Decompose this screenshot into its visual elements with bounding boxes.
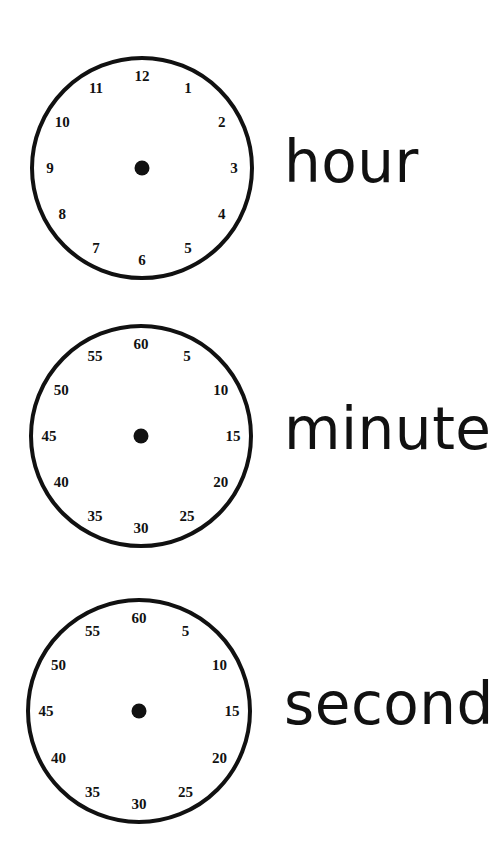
center-dot-icon (135, 161, 150, 176)
clock-number: 30 (132, 796, 147, 812)
clock-number: 15 (225, 703, 240, 719)
clock-number: 5 (184, 240, 192, 256)
clock-number: 10 (55, 114, 70, 130)
hour-label: hour (284, 133, 419, 191)
clock-number: 40 (54, 474, 69, 490)
clock-number: 5 (182, 623, 190, 639)
clock-number: 20 (212, 750, 227, 766)
center-dot-icon (134, 429, 149, 444)
clock-number: 8 (59, 206, 67, 222)
clock-number: 55 (85, 623, 100, 639)
clock-number: 2 (218, 114, 226, 130)
hour-clock-face: 121234567891011 (32, 58, 252, 278)
minute-clock-face: 60510152025303540455055 (31, 326, 251, 546)
clock-number: 7 (92, 240, 100, 256)
clock-number: 30 (134, 520, 149, 536)
clock-number: 60 (134, 336, 149, 352)
clock-number: 50 (51, 657, 66, 673)
clock-number: 1 (184, 80, 192, 96)
clock-number: 15 (226, 428, 241, 444)
clock-number: 6 (138, 252, 146, 268)
clock-number: 45 (42, 428, 57, 444)
clock-number: 5 (183, 348, 191, 364)
clock-number: 10 (212, 657, 227, 673)
clock-number: 11 (89, 80, 103, 96)
clock-number: 40 (51, 750, 66, 766)
clock-number: 35 (85, 784, 100, 800)
clock-number: 60 (132, 610, 147, 626)
clock-number: 50 (54, 382, 69, 398)
second-clock-face: 60510152025303540455055 (28, 600, 250, 822)
center-dot-icon (132, 704, 147, 719)
clock-number: 25 (178, 784, 193, 800)
clock-number: 20 (213, 474, 228, 490)
clock-number: 35 (88, 508, 103, 524)
clock-number: 3 (230, 160, 238, 176)
clock-number: 4 (218, 206, 226, 222)
clock-number: 12 (135, 68, 150, 84)
clock-number: 10 (213, 382, 228, 398)
minute-label: minute (284, 400, 492, 458)
second-label: second (284, 675, 492, 733)
clock-number: 25 (180, 508, 195, 524)
clock-number: 9 (46, 160, 54, 176)
clock-number: 45 (39, 703, 54, 719)
clock-number: 55 (88, 348, 103, 364)
